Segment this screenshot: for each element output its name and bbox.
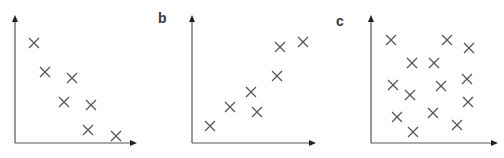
x-marker-icon (462, 74, 472, 84)
x-marker-icon (246, 87, 256, 97)
x-axis-arrow-icon (130, 140, 137, 146)
x-marker-icon (252, 107, 262, 117)
x-marker-icon (428, 108, 438, 118)
x-marker-icon (442, 35, 452, 45)
x-marker-icon (408, 127, 418, 137)
x-marker-icon (407, 58, 417, 68)
x-axis-arrow-icon (491, 140, 498, 146)
x-marker-icon (436, 81, 446, 91)
x-marker-icon (225, 102, 235, 112)
x-marker-icon (429, 58, 439, 68)
x-marker-icon (388, 80, 398, 90)
x-marker-icon (59, 97, 69, 107)
x-marker-icon (205, 121, 215, 131)
x-marker-icon (298, 37, 308, 47)
panel-label-c: c (336, 13, 344, 29)
x-marker-icon (452, 120, 462, 130)
scatter-panel-a (12, 15, 137, 146)
y-axis-arrow-icon (368, 15, 374, 22)
scatter-figure: b c (0, 0, 504, 158)
scatter-panel-c (368, 15, 498, 146)
x-marker-icon (83, 125, 93, 135)
x-marker-icon (272, 71, 282, 81)
x-marker-icon (275, 42, 285, 52)
x-marker-icon (67, 73, 77, 83)
scatter-plots-canvas (0, 0, 504, 158)
x-marker-icon (464, 43, 474, 53)
x-marker-icon (86, 100, 96, 110)
x-axis-arrow-icon (309, 140, 316, 146)
scatter-panel-b (189, 15, 316, 146)
x-marker-icon (392, 112, 402, 122)
x-marker-icon (29, 38, 39, 48)
x-marker-icon (111, 131, 121, 141)
x-marker-icon (405, 90, 415, 100)
y-axis-arrow-icon (12, 15, 18, 22)
x-marker-icon (40, 67, 50, 77)
panel-label-b: b (158, 10, 167, 26)
x-marker-icon (386, 35, 396, 45)
y-axis-arrow-icon (189, 15, 195, 22)
x-marker-icon (463, 97, 473, 107)
